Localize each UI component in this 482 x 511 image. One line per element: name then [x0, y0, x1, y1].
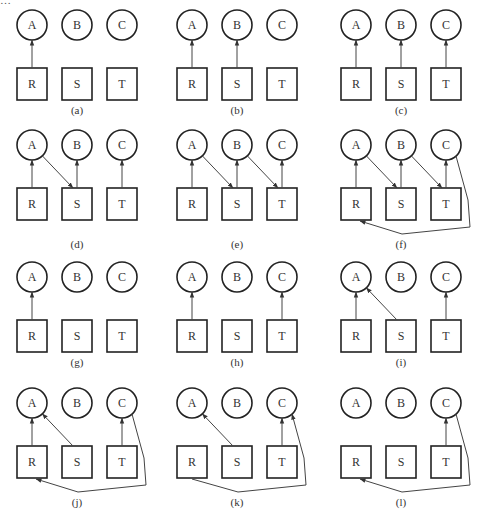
box-node-label: S: [74, 329, 81, 343]
box-node-label: T: [118, 197, 126, 211]
box-node-label: R: [28, 455, 36, 469]
circle-node-label: C: [278, 18, 286, 32]
circle-node-label: B: [73, 18, 81, 32]
box-node-label: S: [398, 455, 405, 469]
circle-node-label: B: [233, 270, 241, 284]
panel-f-label: (f): [396, 238, 407, 251]
box-node-label: S: [74, 455, 81, 469]
box-node-label: S: [74, 197, 81, 211]
circle-node-label: A: [352, 270, 361, 284]
circle-node-label: B: [73, 396, 81, 410]
circle-node-label: A: [188, 396, 197, 410]
box-node-label: R: [352, 455, 360, 469]
edge-s-to-a-arrow: [202, 414, 233, 446]
panel-h: ABCRST(h): [177, 262, 297, 369]
edge-b-to-t-arrow: [411, 156, 442, 188]
panel-e: ABCRST(e): [177, 130, 297, 251]
edge-a-to-s-arrow: [42, 156, 73, 188]
circle-node-label: C: [278, 396, 286, 410]
box-node-label: T: [442, 197, 450, 211]
box-node-label: S: [398, 77, 405, 91]
circle-node-label: A: [352, 18, 361, 32]
box-node-label: T: [118, 329, 126, 343]
circle-node-label: A: [352, 396, 361, 410]
box-node-label: T: [118, 77, 126, 91]
box-node-label: T: [442, 77, 450, 91]
panel-i: ABCRST(i): [341, 262, 461, 369]
panel-b-label: (b): [231, 104, 244, 117]
edge-s-to-a-arrow: [42, 414, 73, 446]
box-node-label: R: [188, 77, 196, 91]
box-node-label: S: [398, 197, 405, 211]
panel-c: ABCRST(c): [341, 10, 461, 117]
box-node-label: R: [188, 197, 196, 211]
circle-node-label: A: [352, 138, 361, 152]
panel-l: ABCRST(l): [341, 388, 470, 509]
box-node-label: T: [278, 77, 286, 91]
circle-node-label: B: [397, 270, 405, 284]
circle-node-label: C: [118, 138, 126, 152]
circle-node-label: C: [442, 396, 450, 410]
box-node-label: T: [442, 329, 450, 343]
box-node-label: R: [188, 455, 196, 469]
circle-node-label: C: [278, 270, 286, 284]
panels-grid: ABCRST(a)ABCRST(b)ABCRST(c)ABCRST(d)ABCR…: [17, 10, 470, 509]
box-node-label: S: [398, 329, 405, 343]
edge-b-to-t-arrow: [247, 156, 278, 188]
box-node-label: T: [278, 197, 286, 211]
box-node-label: S: [234, 77, 241, 91]
circle-node-label: C: [442, 138, 450, 152]
box-node-label: R: [352, 197, 360, 211]
circle-node-label: B: [233, 18, 241, 32]
panel-j: ABCRST(j): [17, 388, 146, 509]
panel-h-label: (h): [231, 356, 244, 369]
box-node-label: S: [74, 77, 81, 91]
circle-node-label: C: [442, 270, 450, 284]
panel-f: ABCRST(f): [341, 130, 470, 251]
panel-g-label: (g): [71, 356, 84, 369]
panel-a-label: (a): [71, 104, 84, 117]
edge-s-to-a-arrow: [366, 288, 397, 320]
circle-node-label: A: [188, 18, 197, 32]
panel-g: ABCRST(g): [17, 262, 137, 369]
circle-node-label: A: [188, 270, 197, 284]
circle-node-label: C: [442, 18, 450, 32]
circle-node-label: C: [278, 138, 286, 152]
box-node-label: T: [118, 455, 126, 469]
box-node-label: R: [28, 329, 36, 343]
circle-node-label: C: [118, 270, 126, 284]
circle-node-label: A: [28, 396, 37, 410]
panel-c-label: (c): [395, 104, 408, 117]
edge-a-to-s-arrow: [366, 156, 397, 188]
diagram-canvas: ABCRST(a)ABCRST(b)ABCRST(c)ABCRST(d)ABCR…: [0, 0, 482, 511]
box-node-label: R: [352, 329, 360, 343]
panel-i-label: (i): [396, 356, 407, 369]
panel-d: ABCRST(d): [17, 130, 137, 251]
panel-d-label: (d): [71, 238, 84, 251]
circle-node-label: B: [397, 18, 405, 32]
box-node-label: S: [234, 455, 241, 469]
circle-node-label: A: [28, 270, 37, 284]
box-node-label: R: [352, 77, 360, 91]
circle-node-label: C: [118, 18, 126, 32]
circle-node-label: B: [233, 396, 241, 410]
circle-node-label: A: [28, 138, 37, 152]
box-node-label: S: [234, 197, 241, 211]
box-node-label: T: [442, 455, 450, 469]
panel-j-label: (j): [72, 496, 83, 509]
circle-node-label: A: [188, 138, 197, 152]
panel-e-label: (e): [231, 238, 244, 251]
box-node-label: R: [28, 197, 36, 211]
panel-l-label: (l): [396, 496, 407, 509]
circle-node-label: B: [73, 270, 81, 284]
box-node-label: R: [28, 77, 36, 91]
circle-node-label: B: [397, 138, 405, 152]
box-node-label: S: [234, 329, 241, 343]
circle-node-label: A: [28, 18, 37, 32]
box-node-label: T: [278, 329, 286, 343]
box-node-label: T: [278, 455, 286, 469]
panel-b: ABCRST(b): [177, 10, 297, 117]
panel-k: ABCRST(k): [177, 388, 306, 509]
panel-a: ABCRST(a): [17, 10, 137, 117]
circle-node-label: B: [73, 138, 81, 152]
